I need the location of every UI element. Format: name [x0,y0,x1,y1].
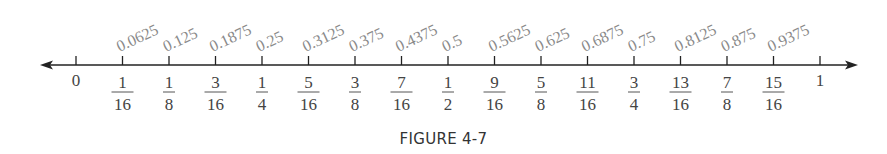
fraction-denominator: 16 [765,95,782,114]
fraction-numerator: 7 [723,73,732,92]
fraction-numerator: 1 [165,73,174,92]
fraction-numerator: 11 [579,73,595,92]
fraction-numerator: 15 [765,73,782,92]
fraction-numerator: 9 [490,73,499,92]
fraction-label: 116 [112,73,134,114]
fraction-numerator: 5 [537,73,546,92]
fraction-denominator: 4 [630,95,639,114]
fraction-denominator: 8 [351,95,360,114]
fraction-numerator: 5 [304,73,313,92]
figure-caption: FIGURE 4-7 [0,130,887,148]
fraction-numerator: 3 [351,73,360,92]
decimal-label: 0.875 [718,24,758,55]
fraction-labels: 0116183161451638716129165811163413167815… [72,71,825,114]
fraction-label: 38 [349,73,361,114]
fraction-label: 716 [391,73,413,114]
number-line-axis [40,61,858,70]
decimal-label: 0.25 [253,27,286,54]
fraction-denominator: 16 [114,95,131,114]
fraction-label: 58 [535,73,547,114]
fraction-numerator: 3 [211,73,220,92]
fraction-label: 12 [442,73,454,114]
fraction-label: 18 [163,73,175,114]
fraction-denominator: 16 [579,95,596,114]
fraction-label: 1316 [670,73,692,114]
fraction-label: 34 [628,73,640,114]
fraction-label: 78 [721,73,733,114]
fraction-denominator: 4 [258,95,267,114]
decimal-label: 0.75 [625,27,658,54]
decimal-label: 0.1875 [207,21,254,55]
decimal-label: 0.5 [439,31,464,55]
fraction-numerator: 1 [258,73,267,92]
fraction-denominator: 2 [444,95,453,114]
decimal-label: 0.375 [346,24,386,55]
whole-number-label: 0 [72,71,81,90]
tick-marks [76,56,820,65]
decimal-label: 0.4375 [393,21,440,55]
fraction-label: 1116 [577,73,599,114]
whole-number-label: 1 [816,71,825,90]
fraction-denominator: 8 [165,95,174,114]
decimal-label: 0.8125 [672,21,719,55]
decimal-label: 0.5625 [486,21,533,55]
fraction-denominator: 16 [207,95,224,114]
fraction-label: 14 [256,73,268,114]
fraction-label: 316 [205,73,227,114]
fraction-denominator: 8 [723,95,732,114]
decimal-label: 0.3125 [300,21,347,55]
fraction-numerator: 1 [118,73,127,92]
decimal-label: 0.0625 [114,21,161,55]
decimal-labels: 0.06250.1250.18750.250.31250.3750.43750.… [114,21,812,55]
fraction-denominator: 16 [300,95,317,114]
fraction-denominator: 16 [672,95,689,114]
fraction-label: 516 [298,73,320,114]
decimal-label: 0.125 [160,24,200,55]
fraction-denominator: 16 [486,95,503,114]
fraction-numerator: 3 [630,73,639,92]
fraction-label: 1516 [763,73,785,114]
decimal-label: 0.625 [532,24,572,55]
fraction-numerator: 13 [672,73,689,92]
fraction-denominator: 8 [537,95,546,114]
decimal-label: 0.9375 [765,21,812,55]
fraction-label: 916 [484,73,506,114]
decimal-label: 0.6875 [579,21,626,55]
fraction-numerator: 1 [444,73,453,92]
fraction-denominator: 16 [393,95,410,114]
fraction-numerator: 7 [397,73,406,92]
